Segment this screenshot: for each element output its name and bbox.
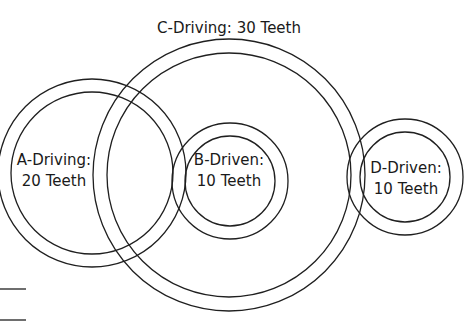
gear-c-label: C-Driving: 30 Teeth — [157, 19, 301, 37]
gear-d-label-line2: 10 Teeth — [374, 180, 438, 198]
gear-b-label-line2: 10 Teeth — [197, 172, 261, 190]
gear-b-label-line1: B-Driven: — [194, 151, 264, 169]
gear-a-label-line1: A-Driving: — [17, 151, 91, 169]
gear-a-label-line2: 20 Teeth — [22, 172, 86, 190]
gear-d-label-line1: D-Driven: — [370, 159, 442, 177]
gear-diagram: C-Driving: 30 Teeth A-Driving: 20 Teeth … — [0, 0, 473, 326]
gear-d-inner-ring — [360, 132, 450, 222]
